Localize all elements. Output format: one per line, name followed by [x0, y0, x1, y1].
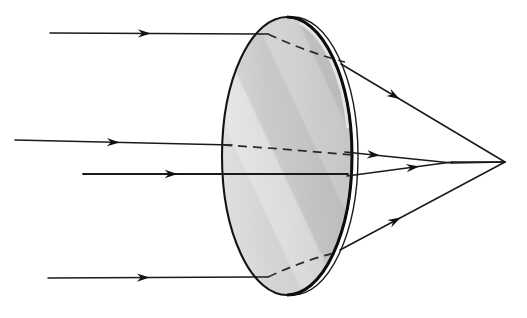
optics-ray-diagram: Converging lens focusing parallel light … — [0, 0, 527, 318]
ray-diagram-canvas: Converging lens focusing parallel light … — [0, 0, 527, 318]
